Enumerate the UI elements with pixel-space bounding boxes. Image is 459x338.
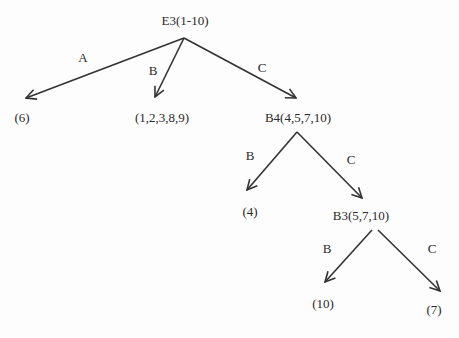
decision-tree-diagram: E3(1-10) (6) (1,2,3,8,9) B4(4,5,7,10) (4… xyxy=(0,0,459,338)
node-b3-leaf-c: (7) xyxy=(426,303,441,316)
edge-label-b3-b: B xyxy=(323,242,332,255)
edge-b3-b xyxy=(325,230,372,282)
node-b4: B4(4,5,7,10) xyxy=(265,111,331,124)
edge-b3-c xyxy=(378,230,440,291)
tree-edges xyxy=(0,0,459,338)
node-b3-leaf-b: (10) xyxy=(312,297,334,310)
edge-label-b4-c: C xyxy=(347,153,356,166)
edge-label-root-a: A xyxy=(78,51,87,64)
edge-root-c xyxy=(184,38,296,98)
node-leaf-a: (6) xyxy=(14,111,29,124)
edge-label-root-b: B xyxy=(149,64,158,77)
edge-root-a xyxy=(26,38,184,98)
node-b4-leaf-b: (4) xyxy=(242,205,257,218)
edge-label-root-c: C xyxy=(258,61,267,74)
node-root: E3(1-10) xyxy=(162,14,209,27)
node-leaf-b: (1,2,3,8,9) xyxy=(135,111,189,124)
node-b3: B3(5,7,10) xyxy=(333,209,389,222)
edge-label-b3-c: C xyxy=(428,242,437,255)
edge-label-b4-b: B xyxy=(246,149,255,162)
